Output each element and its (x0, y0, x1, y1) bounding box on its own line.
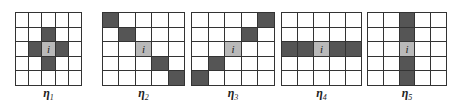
grid-cell (69, 42, 81, 56)
grid-cell (258, 28, 274, 42)
neighbor-cell (400, 71, 415, 85)
grid-cell (119, 71, 134, 85)
grid-cell (192, 42, 208, 56)
grid-cell (415, 13, 430, 27)
neighbor-cell (169, 71, 184, 85)
grid-cell (242, 13, 258, 27)
neighbor-cell (42, 57, 54, 71)
neighbor-cell (42, 28, 54, 42)
grid-cell (209, 13, 225, 27)
grid-cell (225, 13, 241, 27)
grid-cell (225, 57, 241, 71)
center-cell: i (136, 42, 151, 56)
grid-cell (298, 71, 313, 85)
grid-cell (368, 13, 383, 27)
neighbor-cell (258, 13, 274, 27)
subscript: 1 (50, 93, 54, 102)
grid-cell (415, 57, 430, 71)
grid-cell (209, 28, 225, 42)
neighbor-cell (209, 57, 225, 71)
grid-cell (258, 71, 274, 85)
grid-cell (56, 57, 68, 71)
grid-cell (431, 71, 446, 85)
grid-cell (368, 71, 383, 85)
grid-cell (225, 28, 241, 42)
grid-cell (298, 28, 313, 42)
grid-cell (152, 13, 167, 27)
grid-cell (69, 13, 81, 27)
grid-cell (136, 28, 151, 42)
grid-cell (29, 13, 41, 27)
grid-cell (16, 71, 28, 85)
grid-cell (29, 28, 41, 42)
grid-cell (242, 42, 258, 56)
grid-cell (29, 57, 41, 71)
grid-cell (384, 71, 399, 85)
panel-eta-4: i (281, 12, 362, 86)
grid-cell (384, 28, 399, 42)
grid-cell (69, 71, 81, 85)
neighbor-cell (29, 42, 41, 56)
neighbor-cell (400, 28, 415, 42)
grid-cell (16, 57, 28, 71)
eta-symbol: η (316, 86, 323, 100)
neighbor-cell (119, 28, 134, 42)
grid-cell (431, 28, 446, 42)
grid-eta-2: i (102, 12, 185, 86)
grid-cell (152, 42, 167, 56)
panel-eta-2: i (102, 12, 185, 86)
grid-cell (169, 42, 184, 56)
grid-cell (368, 42, 383, 56)
grid-cell (282, 13, 297, 27)
grid-cell (56, 28, 68, 42)
grid-cell (415, 42, 430, 56)
grid-cell (103, 71, 118, 85)
grid-cell (314, 13, 329, 27)
neighbor-cell (192, 71, 208, 85)
grid-cell (431, 42, 446, 56)
grid-cell (258, 42, 274, 56)
grid-cell (330, 71, 345, 85)
grid-cell (346, 13, 361, 27)
neighbor-cell (298, 42, 313, 56)
subscript: 5 (408, 93, 412, 102)
grid-cell (152, 28, 167, 42)
center-cell: i (225, 42, 241, 56)
grid-cell (169, 13, 184, 27)
grid-cell (119, 42, 134, 56)
subscript: 2 (145, 93, 149, 102)
grid-eta-4: i (281, 12, 362, 86)
grid-cell (314, 57, 329, 71)
grid-cell (29, 71, 41, 85)
subscript: 4 (323, 93, 327, 102)
grid-cell (330, 13, 345, 27)
grid-cell (169, 57, 184, 71)
panel-label-eta-4: η4 (281, 86, 362, 102)
grid-cell (136, 71, 151, 85)
grid-cell (298, 57, 313, 71)
grid-cell (384, 57, 399, 71)
eta-symbol: η (43, 86, 50, 100)
grid-cell (152, 71, 167, 85)
grid-cell (103, 57, 118, 71)
grid-cell (384, 13, 399, 27)
grid-cell (431, 13, 446, 27)
neighbor-cell (282, 42, 297, 56)
grid-cell (242, 71, 258, 85)
neighbor-cell (330, 42, 345, 56)
neighbor-cell (346, 42, 361, 56)
grid-cell (103, 28, 118, 42)
panel-label-eta-5: η5 (367, 86, 447, 102)
grid-cell (69, 57, 81, 71)
grid-cell (346, 57, 361, 71)
grid-cell (42, 13, 54, 27)
grid-cell (346, 71, 361, 85)
neighbor-cell (56, 42, 68, 56)
center-cell: i (314, 42, 329, 56)
panel-label-eta-2: η2 (102, 86, 185, 102)
grid-cell (415, 71, 430, 85)
grid-cell (368, 57, 383, 71)
grid-cell (69, 28, 81, 42)
grid-cell (431, 57, 446, 71)
panel-eta-1: i (15, 12, 82, 86)
